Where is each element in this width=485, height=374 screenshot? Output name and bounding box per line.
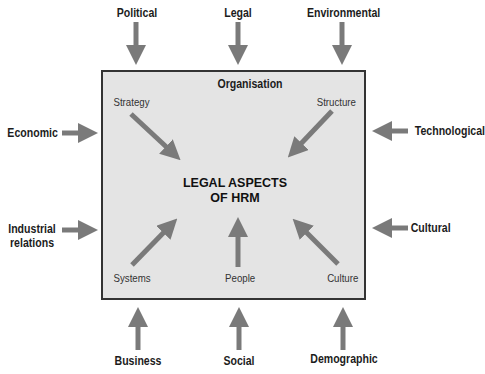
arrow-culture — [299, 225, 338, 264]
arrow-structure — [294, 111, 332, 151]
arrow-strategy — [131, 114, 174, 154]
arrow-systems — [132, 225, 171, 265]
